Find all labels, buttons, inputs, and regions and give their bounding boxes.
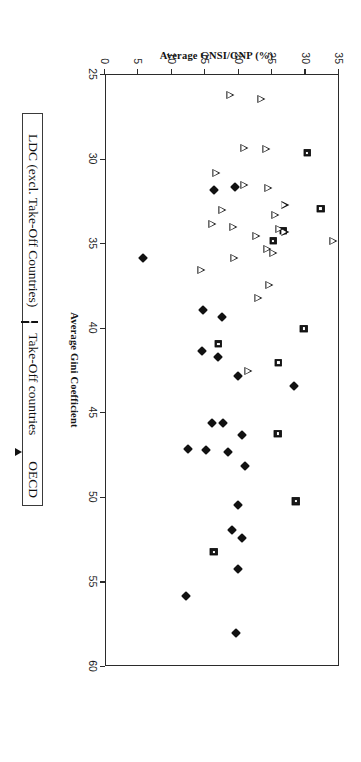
data-point-diamond bbox=[237, 430, 247, 440]
data-point-triangle bbox=[254, 294, 262, 302]
y-axis-tick bbox=[137, 69, 138, 74]
data-point-triangle bbox=[241, 144, 249, 152]
data-point-triangle bbox=[212, 169, 220, 177]
square-marker-icon bbox=[28, 320, 37, 329]
legend-item-oecd[interactable]: OECD bbox=[26, 448, 40, 498]
data-point-diamond bbox=[198, 305, 208, 315]
data-point-diamond bbox=[223, 447, 233, 457]
data-point-square bbox=[304, 149, 312, 157]
data-point-triangle bbox=[244, 367, 252, 375]
data-point-diamond bbox=[181, 591, 191, 601]
x-axis-tick-label: 25 bbox=[87, 68, 99, 80]
data-point-triangle bbox=[252, 232, 260, 240]
y-axis-tick-label: 15 bbox=[199, 52, 211, 64]
y-axis-tick-label: 5 bbox=[132, 58, 144, 64]
y-axis-tick-label: 35 bbox=[333, 52, 345, 64]
data-point-square bbox=[215, 340, 223, 348]
y-axis-tick bbox=[338, 69, 339, 74]
y-axis-tick-label: 25 bbox=[266, 52, 278, 64]
y-axis-tick bbox=[271, 69, 272, 74]
data-point-triangle bbox=[197, 266, 205, 274]
data-point-diamond bbox=[209, 185, 219, 195]
data-point-square bbox=[275, 359, 283, 367]
data-point-square bbox=[269, 237, 277, 245]
x-axis-tick-label: 50 bbox=[87, 491, 99, 503]
y-axis-tick-label: 20 bbox=[233, 52, 245, 64]
chart-legend: LDC (excl. Take-Off Countries) Take-Off … bbox=[22, 113, 43, 506]
data-point-square bbox=[300, 325, 308, 333]
data-point-diamond bbox=[231, 628, 241, 638]
data-point-diamond bbox=[289, 381, 299, 391]
data-point-triangle bbox=[329, 237, 337, 245]
data-point-triangle bbox=[272, 211, 280, 219]
x-axis-tick-label: 30 bbox=[87, 153, 99, 165]
y-axis-tick-label: 10 bbox=[166, 52, 178, 64]
data-point-square bbox=[317, 205, 325, 213]
data-point-diamond bbox=[201, 446, 211, 456]
data-point-diamond bbox=[218, 418, 228, 428]
data-point-triangle bbox=[241, 181, 249, 189]
x-axis-tick bbox=[100, 497, 105, 498]
x-axis-tick bbox=[100, 666, 105, 667]
y-axis-tick bbox=[204, 69, 205, 74]
data-point-triangle bbox=[266, 281, 274, 289]
x-axis-tick-label: 40 bbox=[87, 322, 99, 334]
data-point-square bbox=[210, 548, 218, 556]
legend-label-oecd: OECD bbox=[26, 461, 40, 498]
data-point-diamond bbox=[217, 312, 227, 322]
legend-item-take-off[interactable]: Take-Off countries bbox=[26, 320, 40, 435]
data-point-triangle bbox=[262, 145, 270, 153]
y-axis-tick bbox=[238, 69, 239, 74]
data-point-square bbox=[292, 497, 300, 505]
x-axis-tick bbox=[100, 159, 105, 160]
scatter-chart-figure: Average GNSI/GNP (%) 2530354045505560051… bbox=[0, 0, 361, 762]
data-point-diamond bbox=[227, 525, 237, 535]
data-point-triangle bbox=[208, 220, 216, 228]
diamond-marker-icon bbox=[28, 121, 37, 130]
legend-label-ldc: LDC (excl. Take-Off Countries) bbox=[26, 134, 40, 307]
x-axis-title: Average Gini Coefficient bbox=[69, 74, 80, 666]
data-point-triangle bbox=[264, 245, 272, 253]
data-point-diamond bbox=[230, 182, 240, 192]
x-axis-tick bbox=[100, 243, 105, 244]
x-axis-tick-label: 55 bbox=[87, 576, 99, 588]
data-point-diamond bbox=[183, 444, 193, 454]
x-axis-tick-label: 45 bbox=[87, 406, 99, 418]
y-axis-tick bbox=[171, 69, 172, 74]
x-axis-tick-label: 35 bbox=[87, 237, 99, 249]
x-axis-tick bbox=[100, 328, 105, 329]
data-point-triangle bbox=[281, 201, 289, 209]
x-axis-tick bbox=[100, 412, 105, 413]
y-axis-tick-label: 0 bbox=[99, 58, 111, 64]
data-point-diamond bbox=[233, 371, 243, 381]
y-axis-tick bbox=[304, 69, 305, 74]
data-point-square bbox=[274, 430, 282, 438]
data-point-triangle bbox=[276, 225, 284, 233]
data-point-diamond bbox=[213, 353, 223, 363]
data-point-diamond bbox=[233, 564, 243, 574]
y-axis-tick-label: 30 bbox=[300, 52, 312, 64]
data-point-triangle bbox=[219, 206, 227, 214]
data-point-diamond bbox=[237, 533, 247, 543]
y-axis-tick bbox=[104, 69, 105, 74]
legend-label-take-off: Take-Off countries bbox=[26, 333, 40, 435]
legend-item-ldc[interactable]: LDC (excl. Take-Off Countries) bbox=[26, 121, 40, 307]
plot-area bbox=[105, 74, 339, 666]
data-point-diamond bbox=[207, 418, 217, 428]
data-point-triangle bbox=[226, 91, 234, 99]
data-point-triangle bbox=[230, 254, 238, 262]
data-point-diamond bbox=[240, 461, 250, 471]
x-axis-tick-label: 60 bbox=[87, 660, 99, 672]
data-point-diamond bbox=[233, 500, 243, 510]
x-axis-tick bbox=[100, 74, 105, 75]
data-point-triangle bbox=[258, 95, 266, 103]
data-point-triangle bbox=[229, 223, 237, 231]
data-point-diamond bbox=[139, 253, 149, 263]
data-point-layer bbox=[106, 75, 338, 665]
x-axis-tick bbox=[100, 581, 105, 582]
data-point-diamond bbox=[197, 346, 207, 356]
triangle-marker-icon bbox=[28, 448, 37, 457]
data-point-triangle bbox=[264, 184, 272, 192]
rotated-figure-container: Average GNSI/GNP (%) 2530354045505560051… bbox=[0, 0, 361, 762]
